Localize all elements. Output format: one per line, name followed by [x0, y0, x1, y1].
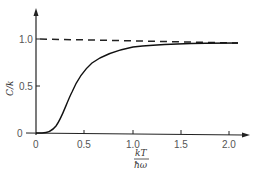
x-tick-label-0.5: 0.5: [77, 139, 91, 150]
x-tick-label-0: 0: [33, 139, 39, 150]
y-tick-label-0: 0: [17, 128, 23, 139]
y-axis-label: C/k: [5, 81, 15, 96]
x-tick-label-2.0: 2.0: [222, 139, 236, 150]
classical-limit-line: [40, 39, 238, 43]
x-axis-label-denominator: ħω: [134, 160, 148, 170]
y-axis-arrow-icon: [34, 8, 39, 16]
x-tick-label-1.5: 1.5: [174, 139, 188, 150]
heat-capacity-chart: 0 0.5 1.0 0 0.5 1.0 1.5 2.0 C/k kT ħω: [0, 0, 256, 175]
x-axis: [26, 133, 244, 135]
heat-capacity-curve: [36, 43, 238, 133]
x-axis-arrow-icon: [242, 133, 250, 138]
y-tick-label-0.5: 0.5: [19, 81, 33, 92]
y-tick-label-1.0: 1.0: [19, 34, 33, 45]
x-axis-label-numerator: kT: [135, 148, 147, 158]
